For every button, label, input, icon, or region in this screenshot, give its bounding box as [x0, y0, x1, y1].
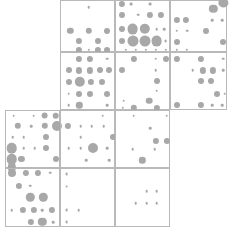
bubble-point: [80, 136, 83, 139]
bubble-point: [41, 209, 44, 212]
bubble-point: [67, 104, 70, 107]
bubble-point: [66, 79, 72, 85]
bubble-point: [87, 67, 93, 73]
bubble-point: [119, 12, 125, 18]
panel-r2c3: [115, 52, 170, 110]
bubble-point: [191, 69, 194, 72]
bubble-point: [155, 202, 158, 205]
bubble-point: [66, 67, 72, 73]
bubble-point: [108, 159, 111, 162]
bubble-point: [122, 99, 125, 102]
bubble-point: [65, 209, 68, 212]
panel-r1c3: [115, 0, 170, 52]
bubble-point: [135, 202, 138, 205]
bubble-point: [146, 97, 153, 104]
bubble-point: [85, 159, 88, 162]
bubble-point: [65, 221, 68, 224]
bubble-point: [149, 3, 152, 6]
bubble-point: [165, 114, 168, 117]
bubble-point: [11, 136, 14, 139]
bubble-point: [130, 3, 133, 6]
bubble-point: [106, 67, 112, 73]
bubble-point: [132, 114, 135, 117]
bubble-point: [222, 58, 225, 61]
bubble-point: [30, 207, 36, 213]
bubble-point: [164, 40, 167, 43]
bubble-point: [12, 114, 15, 117]
bubble-point: [106, 58, 109, 61]
bubble-point: [127, 36, 138, 47]
panel-r3c2: [60, 110, 115, 168]
panel-r1c4: [170, 0, 227, 52]
bubble-point: [147, 11, 153, 17]
bubble-point: [67, 92, 70, 95]
bubble-point: [49, 207, 55, 213]
bubble-point: [153, 138, 159, 144]
bubble-point: [97, 67, 103, 73]
bubble-point: [208, 78, 214, 84]
bubble-point: [43, 145, 49, 151]
bubble-point: [174, 17, 180, 23]
bubble-point: [154, 69, 157, 72]
bubble-point: [80, 147, 83, 150]
bubble-point: [95, 38, 101, 44]
bubble-point: [99, 79, 105, 85]
bubble-point: [67, 27, 73, 33]
bubble-point: [221, 19, 224, 22]
bubble-point: [41, 123, 47, 129]
bubble-point: [198, 102, 204, 108]
bubble-point: [80, 125, 83, 128]
bubble-point: [153, 148, 156, 151]
bubble-point: [158, 11, 164, 17]
bubble-point: [28, 219, 34, 225]
bubble-point: [186, 29, 189, 32]
bubble-point: [155, 28, 158, 31]
bubble-point: [87, 49, 89, 51]
bubble-point: [222, 69, 225, 72]
bubble-point: [32, 114, 35, 117]
bubble-point: [52, 112, 59, 119]
bubble-point: [146, 190, 149, 193]
bubble-point: [88, 143, 98, 153]
bubble-point: [154, 49, 156, 51]
bubble-point: [175, 29, 178, 32]
bubble-point: [41, 112, 48, 119]
bubble-point: [22, 147, 25, 150]
bubble-point: [76, 91, 82, 97]
bubble-point: [104, 28, 110, 34]
bubble-point: [33, 147, 36, 150]
bubble-point: [127, 24, 138, 35]
bubble-point: [119, 38, 125, 44]
panel-r2c2: [60, 52, 115, 110]
bubble-point: [220, 39, 226, 45]
bubble-point: [22, 136, 25, 139]
bubble-point: [10, 209, 13, 212]
bubble-point: [174, 39, 180, 45]
bubble-point: [119, 67, 125, 73]
bubble-point: [211, 19, 214, 22]
bubble-point: [77, 209, 80, 212]
bubble-point: [203, 28, 209, 34]
bubble-point: [163, 56, 169, 62]
bubble-point: [76, 102, 82, 108]
bubble-point: [139, 24, 149, 34]
bubble-point: [8, 169, 16, 177]
bubble-point: [198, 78, 204, 84]
bubble-point: [16, 182, 22, 188]
bubble-point: [19, 207, 25, 213]
bubble-point: [154, 78, 160, 84]
bubble-point: [174, 56, 180, 62]
bubble-point: [121, 107, 123, 109]
bubble-point: [155, 190, 158, 193]
bubble-point: [67, 147, 70, 150]
bubble-point: [210, 67, 216, 73]
panel-r2c4: [170, 52, 227, 110]
bubble-point: [219, 0, 228, 7]
bubble-point: [149, 127, 152, 130]
bubble-point: [65, 185, 68, 188]
bubble-point: [106, 147, 109, 150]
bubble-point: [38, 218, 46, 226]
bubble-point: [76, 37, 82, 43]
panel-r3c1: [5, 110, 60, 168]
bubble-point: [39, 193, 47, 201]
